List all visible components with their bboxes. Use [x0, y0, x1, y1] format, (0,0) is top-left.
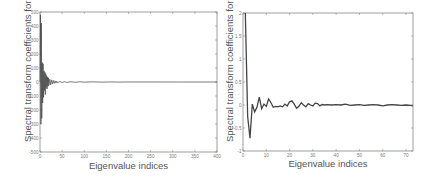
- svg-text:-1: -1: [237, 149, 242, 154]
- svg-text:200: 200: [125, 154, 133, 159]
- chart-left: 050100150200250300350400-500-400-300-200…: [0, 0, 220, 176]
- y-axis-label-right: Spectral transform coefficients for x: [224, 0, 235, 142]
- y-axis-label-text: Spectral transform coefficients for: [22, 1, 33, 142]
- svg-text:0: 0: [239, 103, 242, 108]
- svg-text:50: 50: [60, 154, 66, 159]
- svg-text:1: 1: [239, 57, 242, 62]
- plot-area-left: 050100150200250300350400-500-400-300-200…: [0, 0, 220, 176]
- svg-text:250: 250: [147, 154, 155, 159]
- svg-text:-500: -500: [29, 150, 39, 155]
- chart-right: 010203040506070-1-0.500.511.52 Spectral …: [220, 0, 435, 176]
- svg-text:150: 150: [103, 154, 111, 159]
- plot-area-right: 010203040506070-1-0.500.511.52: [220, 0, 435, 176]
- svg-text:300: 300: [169, 154, 177, 159]
- svg-text:0: 0: [39, 154, 42, 159]
- svg-text:2: 2: [239, 11, 242, 16]
- svg-text:350: 350: [191, 154, 199, 159]
- svg-text:0: 0: [36, 80, 39, 85]
- x-axis-label-right: Eigenvalue indices: [243, 158, 413, 169]
- y-axis-label-text: Spectral transform coefficients for: [224, 1, 235, 142]
- x-axis-label-left: Eigenvalue indices: [40, 160, 217, 171]
- svg-text:0.5: 0.5: [235, 80, 242, 85]
- y-axis-label-left: Spectral transform coefficients for x: [22, 0, 33, 142]
- svg-text:1.5: 1.5: [235, 34, 242, 39]
- svg-text:100: 100: [80, 154, 88, 159]
